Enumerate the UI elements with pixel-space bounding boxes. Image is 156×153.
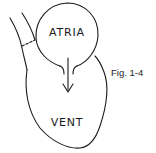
heart-diagram: ATRIA VENT Fig. 1-4 [0, 0, 156, 153]
atria-label: ATRIA [49, 26, 85, 39]
figure-caption: Fig. 1-4 [111, 67, 143, 78]
ventricle-label: VENT [51, 116, 84, 129]
vessel-inner-wall [22, 13, 35, 40]
vessel-junction-dashed-line [22, 40, 35, 46]
ventricle-outline [26, 56, 107, 148]
ventricle: VENT [26, 56, 107, 148]
vessel-outer-wall [10, 18, 27, 70]
atria: ATRIA [36, 3, 98, 74]
vessel [10, 13, 35, 70]
flow-arrow [63, 58, 73, 92]
atria-valve-right-flap [73, 66, 77, 74]
atria-valve-left-flap [60, 66, 64, 74]
